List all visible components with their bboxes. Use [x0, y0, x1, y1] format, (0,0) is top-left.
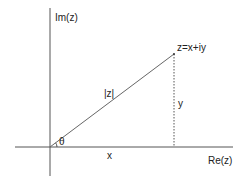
point-label: z=x+iy: [177, 42, 206, 53]
modulus-vector: [50, 54, 174, 147]
real-axis-label: Re(z): [208, 155, 232, 166]
imaginary-axis-label: Im(z): [55, 12, 78, 23]
angle-arc: [56, 143, 57, 147]
real-part-label: x: [107, 150, 112, 161]
complex-plane-diagram: Im(z) z=x+iy |z| y θ x Re(z): [0, 0, 246, 180]
angle-label: θ: [59, 136, 65, 147]
modulus-label: |z|: [104, 88, 114, 99]
point-z: [173, 53, 175, 55]
imaginary-part-label: y: [178, 98, 183, 109]
